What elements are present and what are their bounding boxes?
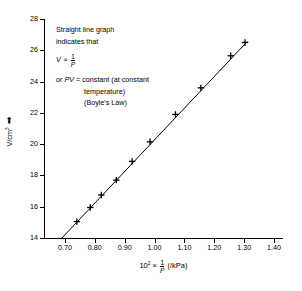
proportional-icon: ∝ (63, 55, 68, 64)
data-point-marker (113, 177, 119, 183)
y-tick-mark (40, 50, 44, 51)
y-tick-label: 28 (30, 15, 38, 22)
x-tick-label: 1.20 (207, 244, 221, 251)
x-tick-label: 0.90 (118, 244, 132, 251)
y-tick-label: 26 (30, 46, 38, 53)
annotation-or: or (56, 75, 62, 84)
annotation-pv: PV (64, 75, 74, 84)
y-tick-label: 14 (30, 234, 38, 241)
x-tick-label: 1.00 (148, 244, 162, 251)
annotation-constant-text: = constant (at constant (76, 75, 149, 84)
y-tick-label: 22 (30, 109, 38, 116)
data-point-marker (147, 139, 153, 145)
y-axis-line (44, 19, 45, 238)
x-tick-label: 1.10 (177, 244, 191, 251)
annotation-line-6: (Boyle's Law) (56, 97, 236, 109)
y-axis-arrow-icon: ➡ (6, 116, 13, 124)
y-tick-label: 20 (30, 140, 38, 147)
annotation-line-1: Straight line graph (56, 24, 236, 36)
y-tick-mark (40, 207, 44, 208)
x-tick-label: 0.70 (58, 244, 72, 251)
annotation-line-2: indicates that (56, 36, 236, 48)
annotation-fraction: 1 P (71, 53, 75, 68)
annotation-line-5: temperature) (56, 86, 236, 98)
data-point-marker (74, 218, 80, 224)
x-tick-label: 1.40 (267, 244, 281, 251)
data-point-marker (98, 192, 104, 198)
y-tick-mark (40, 19, 44, 20)
data-point-marker (172, 111, 178, 117)
data-point-marker (242, 39, 248, 45)
y-tick-mark (40, 238, 44, 239)
y-axis-title-exponent: 3 (5, 128, 10, 131)
x-axis-title: 102 × 1 P (/kPa) (44, 259, 283, 274)
x-axis-title-exponent: 2 (148, 261, 151, 266)
y-tick-label: 16 (30, 203, 38, 210)
y-tick-label: 18 (30, 171, 38, 178)
data-point-marker (129, 158, 135, 164)
chart-annotation: Straight line graph indicates that V ∝ 1… (56, 24, 236, 109)
x-tick-label: 1.30 (237, 244, 251, 251)
annotation-variable-v: V (56, 55, 61, 64)
y-axis-title: V/cm3 ➡ (0, 124, 44, 138)
annotation-proportionality: V ∝ 1 P (56, 53, 236, 68)
x-axis-units: (/kPa) (168, 261, 188, 270)
x-axis-title-base: 10 (139, 261, 147, 270)
x-axis-line (44, 238, 283, 239)
fraction-denominator: P (71, 60, 75, 68)
multiply-icon: × (153, 261, 157, 270)
fraction-numerator: 1 (160, 259, 164, 266)
fraction-denominator: P (160, 266, 164, 274)
data-point-marker (87, 204, 93, 210)
fraction-numerator: 1 (71, 53, 75, 60)
y-tick-label: 24 (30, 78, 38, 85)
y-tick-mark (40, 113, 44, 114)
chart-figure: 1416182022242628 0.700.800.901.001.101.2… (0, 0, 302, 291)
y-tick-mark (40, 144, 44, 145)
x-axis-fraction: 1 P (160, 259, 164, 274)
y-tick-mark (40, 175, 44, 176)
annotation-line-4: or PV = constant (at constant (56, 74, 236, 86)
y-axis-title-text: V/cm3 (4, 128, 14, 147)
x-tick-label: 0.80 (88, 244, 102, 251)
y-tick-mark (40, 82, 44, 83)
